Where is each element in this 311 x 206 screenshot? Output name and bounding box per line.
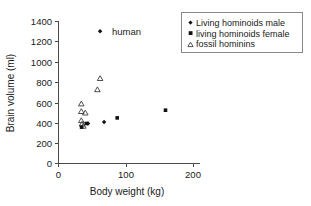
y-axis-title: Brain volume (ml) bbox=[5, 54, 16, 132]
y-tick-label-800: 800 bbox=[36, 77, 52, 88]
y-tick-label-1400: 1400 bbox=[31, 16, 52, 27]
legend-label-male: Living hominoids male bbox=[196, 18, 285, 28]
legend-label-fossil: fossil hominins bbox=[196, 39, 256, 49]
x-tick-label-0: 0 bbox=[56, 169, 61, 180]
scatter-plot-figure: 1400 1200 1000 800 600 400 200 0 0 100 2… bbox=[0, 0, 311, 206]
x-tick-label-200: 200 bbox=[185, 169, 201, 180]
x-tick-label-100: 100 bbox=[118, 169, 134, 180]
y-tick-label-0: 0 bbox=[47, 158, 52, 169]
data-point-square bbox=[115, 116, 119, 120]
y-tick-label-1200: 1200 bbox=[31, 36, 52, 47]
y-tick-label-600: 600 bbox=[36, 98, 52, 109]
chart-svg: 1400 1200 1000 800 600 400 200 0 0 100 2… bbox=[0, 0, 311, 206]
x-axis-title: Body weight (kg) bbox=[90, 186, 164, 197]
square-marker-icon bbox=[189, 31, 193, 35]
legend: Living hominoids male living hominoids f… bbox=[182, 13, 303, 53]
data-point-square bbox=[80, 125, 84, 129]
legend-label-female: living hominoids female bbox=[196, 29, 290, 39]
y-tick-label-1000: 1000 bbox=[31, 57, 52, 68]
y-tick-label-200: 200 bbox=[36, 138, 52, 149]
y-tick-label-400: 400 bbox=[36, 118, 52, 129]
data-point-square bbox=[164, 108, 168, 112]
annotation-human-label: human bbox=[112, 26, 141, 37]
